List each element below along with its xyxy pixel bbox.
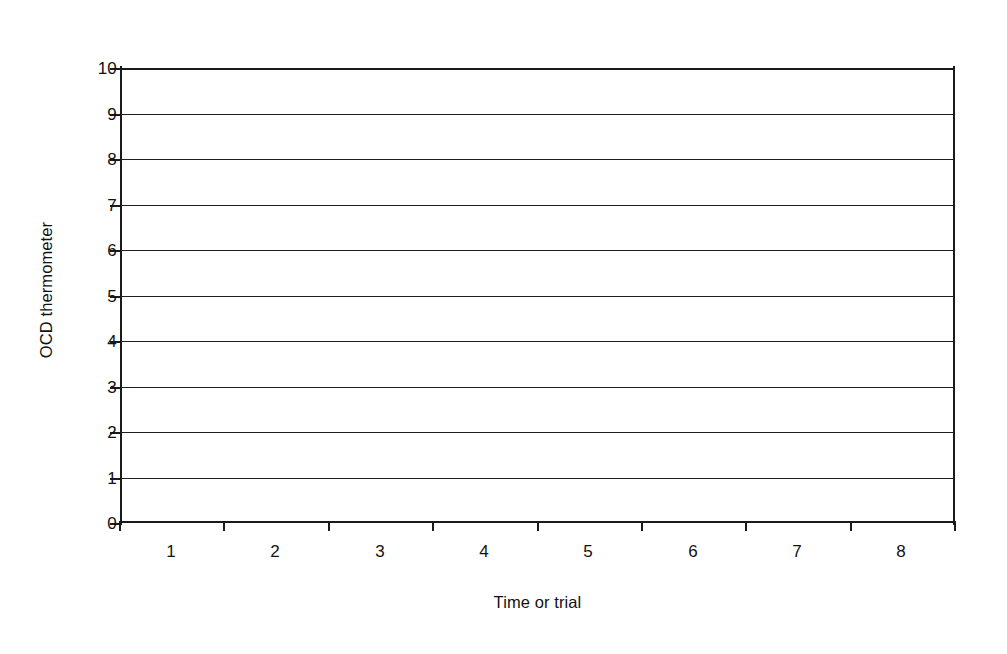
x-tick-boundary-5 (641, 523, 643, 531)
y-tick-label-7: 7 (107, 197, 117, 214)
x-tick-boundary-6 (745, 523, 747, 531)
gridline-5 (120, 296, 955, 297)
y-tick-label-5: 5 (107, 288, 117, 305)
x-tick-boundary-3 (432, 523, 434, 531)
y-axis-title: OCD thermometer (37, 222, 56, 358)
y-tick-label-9: 9 (107, 106, 117, 123)
y-tick-label-0: 0 (107, 515, 117, 532)
x-axis-title: Time or trial (120, 593, 955, 612)
gridline-1 (120, 478, 955, 479)
x-tick-boundary-8 (954, 523, 956, 531)
x-tick-label-1: 1 (151, 543, 191, 560)
plot-area (120, 68, 955, 523)
chart-figure: 10 9 8 7 6 5 4 3 2 1 0 1 2 3 4 5 6 7 8 O… (0, 0, 1007, 654)
gridline-8 (120, 159, 955, 160)
x-tick-label-5: 5 (568, 543, 608, 560)
x-tick-boundary-4 (537, 523, 539, 531)
x-tick-boundary-1 (223, 523, 225, 531)
x-tick-boundary-0 (119, 523, 121, 531)
y-tick-label-10: 10 (98, 60, 117, 77)
y-tick-label-1: 1 (107, 470, 117, 487)
x-tick-label-3: 3 (360, 543, 400, 560)
gridline-6 (120, 250, 955, 251)
plot-right-border (953, 66, 955, 525)
gridline-10 (120, 68, 955, 70)
x-tick-boundary-2 (328, 523, 330, 531)
gridline-7 (120, 205, 955, 206)
y-tick-label-4: 4 (107, 333, 117, 350)
gridline-3 (120, 387, 955, 388)
gridline-9 (120, 114, 955, 115)
gridline-4 (120, 341, 955, 342)
x-tick-label-7: 7 (777, 543, 817, 560)
y-tick-label-3: 3 (107, 379, 117, 396)
x-tick-label-6: 6 (673, 543, 713, 560)
y-tick-label-6: 6 (107, 242, 117, 259)
x-tick-label-4: 4 (464, 543, 504, 560)
gridline-2 (120, 432, 955, 433)
x-tick-label-2: 2 (255, 543, 295, 560)
y-tick-label-2: 2 (107, 424, 117, 441)
y-tick-label-8: 8 (107, 151, 117, 168)
y-axis-line (120, 66, 122, 525)
x-tick-boundary-7 (850, 523, 852, 531)
x-tick-label-8: 8 (881, 543, 921, 560)
